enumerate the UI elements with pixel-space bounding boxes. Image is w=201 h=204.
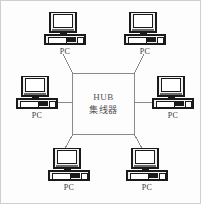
- hub-label-cjk: 集线器: [89, 104, 118, 117]
- pc-middle-right[interactable]: PC: [150, 76, 196, 120]
- network-topology-diagram: HUB 集线器 PCPCPCPCPCPC: [0, 0, 201, 204]
- desktop-computer-icon: [15, 76, 59, 110]
- desktop-computer-icon: [43, 12, 87, 46]
- desktop-computer-icon: [123, 12, 167, 46]
- desktop-computer-icon: [151, 76, 195, 110]
- pc-middle-right-label: PC: [150, 111, 196, 120]
- pc-bottom-right[interactable]: PC: [124, 148, 170, 192]
- pc-top-right[interactable]: PC: [122, 12, 168, 56]
- link-pc-top-left: [63, 54, 73, 74]
- pc-middle-left-label: PC: [14, 111, 60, 120]
- pc-top-left-label: PC: [42, 47, 88, 56]
- link-pc-top-right: [134, 54, 144, 74]
- pc-bottom-right-label: PC: [124, 183, 170, 192]
- hub-node[interactable]: HUB 集线器: [72, 73, 135, 135]
- pc-middle-left[interactable]: PC: [14, 76, 60, 120]
- pc-bottom-left[interactable]: PC: [46, 148, 92, 192]
- desktop-computer-icon: [125, 148, 169, 182]
- pc-bottom-left-label: PC: [46, 183, 92, 192]
- pc-top-right-label: PC: [122, 47, 168, 56]
- desktop-computer-icon: [47, 148, 91, 182]
- hub-label-latin: HUB: [93, 91, 114, 104]
- pc-top-left[interactable]: PC: [42, 12, 88, 56]
